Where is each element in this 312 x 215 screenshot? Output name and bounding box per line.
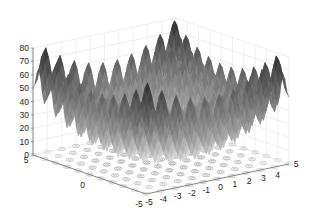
x-tick-label: 3	[261, 173, 266, 183]
surface-mesh	[33, 21, 289, 164]
z-tick-label: 50	[20, 83, 30, 93]
z-tick-label: 80	[20, 43, 30, 53]
x-tick-label: 2	[247, 176, 252, 186]
z-tick-label: 20	[20, 123, 30, 133]
y-tick-label: 5	[24, 155, 29, 165]
x-tick-label: -4	[160, 194, 168, 204]
surface-plot-figure: 01020304050607080 50-5 -5-4-3-2-1012345	[0, 0, 312, 215]
z-tick-label: 10	[20, 137, 30, 147]
x-tick-label: 1	[232, 179, 237, 189]
x-tick-label: 5	[294, 159, 299, 169]
z-axis-ticks: 01020304050607080	[20, 43, 33, 160]
x-tick-label: -1	[202, 185, 210, 195]
y-tick-label: 0	[80, 180, 85, 190]
z-tick-label: 40	[20, 97, 30, 107]
x-tick-label: -2	[188, 188, 196, 198]
x-tick-label: -3	[174, 191, 182, 201]
z-tick-label: 60	[20, 70, 30, 80]
surface-plot: 01020304050607080 50-5 -5-4-3-2-1012345	[0, 0, 312, 215]
x-tick-label: 4	[275, 170, 280, 180]
y-tick-label: -5	[135, 199, 143, 209]
z-tick-label: 30	[20, 110, 30, 120]
x-tick-label: -5	[145, 197, 153, 207]
x-tick-label: 0	[218, 182, 223, 192]
z-tick-label: 70	[20, 56, 30, 66]
